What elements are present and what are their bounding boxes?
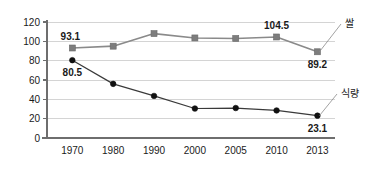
x-tick-label: 1970: [61, 145, 84, 156]
data-label: 89.2: [308, 59, 328, 70]
x-tick-label: 2005: [225, 145, 248, 156]
y-tick-label: 80: [29, 55, 41, 66]
data-point-marker: [233, 35, 239, 41]
data-point-marker: [192, 106, 198, 112]
x-axis-group: 1970198019902000200520102013: [42, 138, 335, 156]
data-label: 80.5: [63, 67, 83, 78]
series-label: 식량: [341, 88, 359, 99]
line-chart: 020406080100120 197019801990200020052010…: [0, 0, 373, 170]
data-label: 23.1: [308, 123, 328, 134]
data-point-marker: [151, 93, 157, 99]
y-tick-label: 120: [23, 17, 40, 28]
series-group: [69, 31, 320, 119]
chart-container: 020406080100120 197019801990200020052010…: [0, 0, 373, 170]
y-tick-label: 0: [34, 133, 40, 144]
x-tick-label: 1990: [143, 145, 166, 156]
x-tick-label: 2000: [184, 145, 207, 156]
y-tick-label: 20: [29, 113, 41, 124]
data-point-marker: [192, 35, 198, 41]
y-axis-group: 020406080100120: [23, 17, 47, 144]
series-leader-line: [319, 94, 337, 116]
data-point-marker: [274, 34, 280, 40]
data-point-marker: [69, 45, 75, 51]
x-tick-label: 1980: [102, 145, 125, 156]
data-point-marker: [110, 81, 116, 87]
y-tick-label: 100: [23, 36, 40, 47]
y-tick-label: 60: [29, 75, 41, 86]
series-label: 쌀: [345, 18, 354, 29]
data-point-marker: [151, 31, 157, 37]
data-label: 104.5: [264, 20, 289, 31]
data-point-marker: [233, 105, 239, 111]
data-point-marker: [274, 108, 280, 114]
x-tick-label: 2010: [265, 145, 288, 156]
data-label: 93.1: [61, 31, 81, 42]
data-point-marker: [315, 113, 321, 119]
series-leader-line: [319, 24, 341, 52]
data-point-marker: [70, 57, 76, 63]
data-point-marker: [110, 43, 116, 49]
x-tick-label: 2013: [306, 145, 329, 156]
y-tick-label: 40: [29, 94, 41, 105]
